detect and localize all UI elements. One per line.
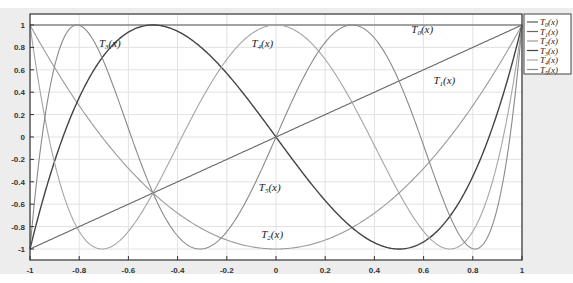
- y-tick-label: 0.8: [14, 43, 26, 52]
- y-tick-label: 0.2: [14, 111, 26, 120]
- annotation-label: T3(x): [99, 37, 121, 51]
- annotation-label: T5(x): [259, 181, 281, 195]
- y-tick-label: 0.4: [14, 88, 26, 97]
- annotation-label: T0(x): [411, 23, 433, 37]
- y-tick-label: 0.6: [14, 66, 26, 75]
- x-tick-label: -1: [26, 266, 34, 275]
- x-tick-label: -0.2: [220, 266, 234, 275]
- y-tick-label: -0.6: [11, 200, 25, 209]
- annotation-label: T2(x): [261, 228, 283, 242]
- x-tick-label: -0.8: [72, 266, 86, 275]
- y-tick-label: 0: [21, 133, 26, 142]
- y-tick-label: 1: [21, 21, 26, 30]
- x-tick-label: 0.6: [418, 266, 430, 275]
- y-tick-label: -1: [18, 245, 26, 254]
- x-tick-label: -0.6: [122, 266, 136, 275]
- y-tick-label: -0.2: [11, 155, 25, 164]
- y-tick-label: -0.4: [11, 178, 25, 187]
- x-tick-label: -0.4: [171, 266, 185, 275]
- x-tick-label: 0.4: [369, 266, 381, 275]
- legend: T0(x)T1(x)T2(x)T3(x)T4(x)T5(x): [524, 14, 571, 76]
- y-tick-label: -0.8: [11, 223, 25, 232]
- x-tick-label: 0.2: [320, 266, 332, 275]
- x-tick-label: 1: [520, 266, 525, 275]
- x-tick-label: 0.8: [467, 266, 479, 275]
- annotation-label: T1(x): [433, 74, 455, 88]
- chebyshev-chart: -1-0.8-0.6-0.4-0.200.20.40.60.81 10.80.6…: [0, 0, 573, 283]
- x-tick-label: 0: [274, 266, 279, 275]
- legend-item-label: T5(x): [540, 65, 558, 76]
- annotation-label: T4(x): [251, 37, 273, 51]
